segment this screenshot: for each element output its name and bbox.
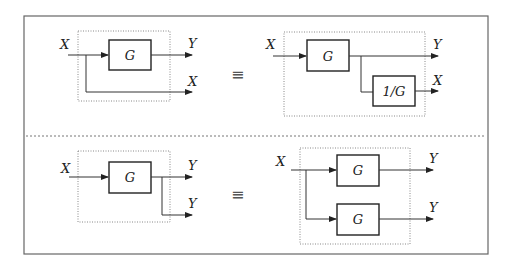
equivalence-symbol-bottom: ≡ [231,185,244,204]
bottom-left-diagram: X G Y Y [60,151,198,222]
block-g-label: G [323,49,333,64]
branch-arrow [306,170,336,219]
input-label-x: X [275,154,286,169]
block-inverse-g-label: 1/G [382,84,405,99]
output-label-x: X [432,73,443,88]
output-label-y1: Y [188,158,198,173]
branch-line [361,56,373,92]
input-label-x: X [265,37,276,52]
bottom-right-diagram: X G Y G Y [275,148,439,244]
input-label-x: X [60,161,71,176]
output-label-x: X [187,74,198,89]
output-label-y2: Y [429,200,439,215]
outer-frame [24,16,488,254]
block-g-label: G [125,170,135,185]
block-g-label: G [125,48,135,63]
block-g-bottom-label: G [353,212,363,227]
top-left-diagram: X G Y X [59,31,198,101]
top-right-diagram: X G Y 1/G X [265,32,443,116]
output-label-y: Y [433,37,443,52]
equivalence-symbol-top: ≡ [231,65,244,84]
input-label-x: X [59,37,70,52]
block-g-top-label: G [353,163,363,178]
block-diagram-equivalences: X G Y X ≡ X G Y 1/G X X G Y Y ≡ [0,0,512,267]
output-label-y: Y [188,36,198,51]
output-label-y2: Y [188,196,198,211]
output-label-y1: Y [429,151,439,166]
